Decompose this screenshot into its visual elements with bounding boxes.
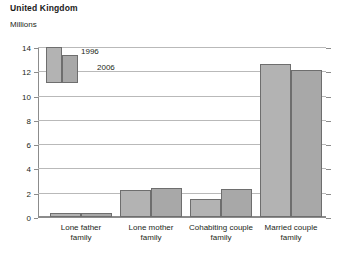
ytick-mark-0 — [34, 218, 38, 219]
ytick-label-14: 14 — [22, 44, 31, 53]
ytick-mark-right-14 — [326, 48, 331, 49]
legend-label-2006: 2006 — [97, 63, 115, 72]
bar-cohabiting-couple-2006[interactable] — [221, 189, 252, 217]
ytick-label-10: 10 — [22, 92, 31, 101]
ytick-label-4: 4 — [27, 165, 31, 174]
ytick-mark-right-8 — [326, 121, 331, 122]
ytick-label-0: 0 — [27, 214, 31, 223]
ytick-mark-right-2 — [326, 194, 331, 195]
ytick-label-8: 8 — [27, 116, 31, 125]
bar-cohabiting-couple-1996[interactable] — [190, 199, 221, 217]
ytick-mark-right-0 — [326, 218, 331, 219]
legend-swatch-2006 — [62, 55, 78, 83]
ytick-label-2: 2 — [27, 189, 31, 198]
legend-swatch-group — [46, 47, 78, 83]
gridline-0: 0 — [38, 217, 326, 218]
bar-lone-mother-2006[interactable] — [151, 188, 182, 217]
bar-lone-father-1996[interactable] — [50, 213, 81, 217]
ytick-mark-right-4 — [326, 169, 331, 170]
chart-title: United Kingdom — [10, 3, 78, 13]
bar-lone-mother-1996[interactable] — [120, 190, 151, 217]
category-label-line-1: Married couple — [241, 223, 341, 233]
ytick-mark-right-10 — [326, 97, 331, 98]
ytick-label-6: 6 — [27, 141, 31, 150]
bar-group-cohabiting-couple: Cohabiting couple family — [190, 47, 252, 217]
chart-subtitle: Millions — [10, 20, 37, 29]
legend-label-1996: 1996 — [81, 47, 99, 56]
bar-married-couple-2006[interactable] — [291, 70, 322, 217]
ytick-mark-right-6 — [326, 145, 331, 146]
bar-married-couple-1996[interactable] — [260, 64, 291, 217]
category-label-line-2: family — [241, 233, 341, 243]
bar-group-married-couple: Married couple family — [260, 47, 322, 217]
bar-lone-father-2006[interactable] — [81, 213, 112, 217]
ytick-mark-right-12 — [326, 72, 331, 73]
chart-figure: United Kingdom Millions 14 12 10 8 6 — [0, 0, 342, 260]
category-label-married-couple: Married couple family — [241, 223, 341, 243]
chart-legend: 1996 2006 — [46, 47, 166, 83]
legend-swatch-1996 — [46, 47, 62, 83]
ytick-label-12: 12 — [22, 68, 31, 77]
